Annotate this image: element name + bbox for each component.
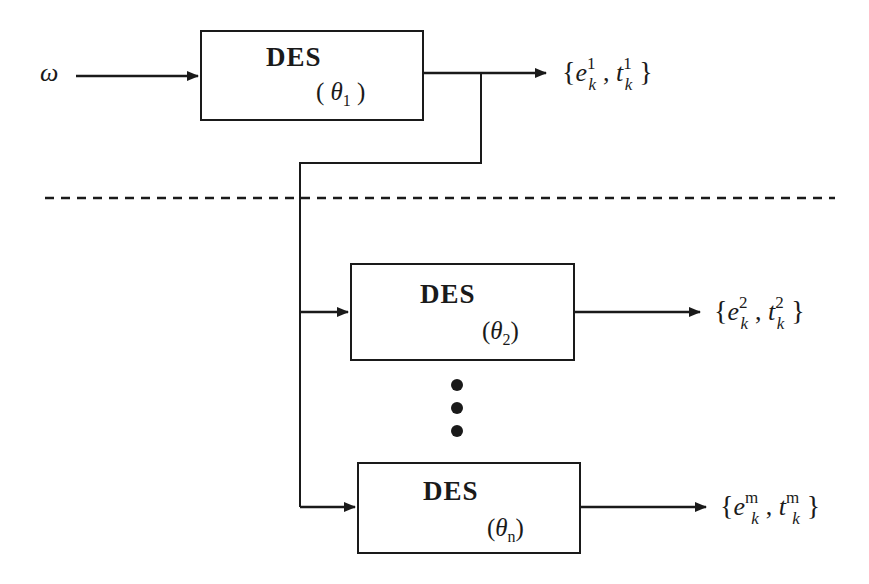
- ellipsis-dots: [451, 379, 463, 437]
- block-parameter: (θn): [487, 514, 524, 546]
- block-title: DES: [420, 279, 476, 310]
- des-block-n: DES (θn): [357, 462, 581, 554]
- output-label-2: {e2k, t2k}: [714, 297, 805, 325]
- input-label-omega: ω: [40, 58, 58, 88]
- des-block-1: DES ( θ1 ): [200, 30, 424, 121]
- des-block-2: DES (θ2): [350, 263, 575, 361]
- output-label-m: {emk, tmk}: [720, 492, 820, 520]
- block-parameter: (θ2): [482, 317, 519, 349]
- output-label-1: {e1k, t1k}: [562, 58, 653, 86]
- block-title: DES: [423, 476, 479, 507]
- block-title: DES: [266, 42, 322, 73]
- block-parameter: ( θ1 ): [316, 78, 365, 110]
